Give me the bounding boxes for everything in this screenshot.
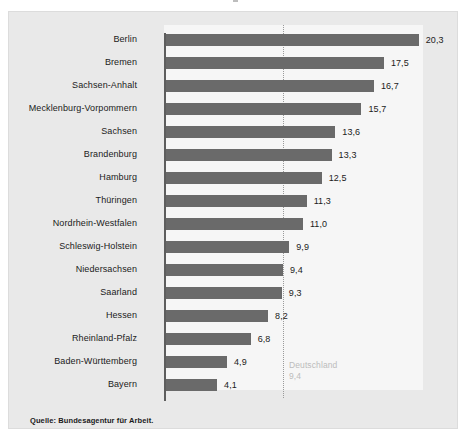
bar <box>166 126 335 138</box>
bar <box>166 264 283 276</box>
bar-row: Saarland9,3 <box>9 283 457 306</box>
chart-figure: Berlin20,3Bremen17,5Sachsen-Anhalt16,7Me… <box>0 0 470 441</box>
category-label: Sachsen-Anhalt <box>72 80 137 90</box>
category-label: Thüringen <box>96 195 137 205</box>
bar-value-label: 11,0 <box>310 219 327 229</box>
bar-value-label: 9,3 <box>289 288 302 298</box>
bar-row: Schleswig-Holstein9,9 <box>9 237 457 260</box>
bar-value-label: 20,3 <box>426 35 444 45</box>
bar <box>166 149 332 161</box>
bar-value-label: 8,2 <box>275 311 288 321</box>
bar-value-label: 12,5 <box>329 173 347 183</box>
chart-panel: Berlin20,3Bremen17,5Sachsen-Anhalt16,7Me… <box>8 11 458 429</box>
category-label: Mecklenburg-Vorpommern <box>29 103 137 113</box>
bar <box>166 172 322 184</box>
bar-row: Hessen8,2 <box>9 306 457 329</box>
bar-row: Bremen17,5 <box>9 53 457 76</box>
bar-value-label: 13,6 <box>342 127 360 137</box>
deutschland-annotation: Deutschland 9,4 <box>289 360 337 382</box>
category-label: Bremen <box>105 57 137 67</box>
category-label: Rheinland-Pfalz <box>72 333 137 343</box>
bar-row: Hamburg12,5 <box>9 168 457 191</box>
crop-mark <box>233 0 238 2</box>
bar-row: Sachsen13,6 <box>9 122 457 145</box>
category-label: Schleswig-Holstein <box>59 241 137 251</box>
bar-value-label: 4,1 <box>224 380 237 390</box>
bar-row: Mecklenburg-Vorpommern15,7 <box>9 99 457 122</box>
bar-row: Brandenburg13,3 <box>9 145 457 168</box>
category-label: Bayern <box>108 379 137 389</box>
category-label: Berlin <box>113 34 137 44</box>
category-label: Sachsen <box>101 126 137 136</box>
bar-row: Sachsen-Anhalt16,7 <box>9 76 457 99</box>
bar-row: Thüringen11,3 <box>9 191 457 214</box>
bar <box>166 287 282 299</box>
bar-rows-container: Berlin20,3Bremen17,5Sachsen-Anhalt16,7Me… <box>9 12 457 428</box>
category-label: Niedersachsen <box>76 264 137 274</box>
bar-row: Rheinland-Pfalz6,8 <box>9 329 457 352</box>
bar-row: Berlin20,3 <box>9 30 457 53</box>
category-label: Brandenburg <box>84 149 137 159</box>
bar-row: Baden-Württemberg4,9 <box>9 352 457 375</box>
bar <box>166 195 307 207</box>
category-label: Hamburg <box>99 172 137 182</box>
bar <box>166 379 217 391</box>
bar-value-label: 17,5 <box>391 58 409 68</box>
bar <box>166 241 289 253</box>
bar-value-label: 11,3 <box>314 196 331 206</box>
bar <box>166 34 419 46</box>
bar-value-label: 6,8 <box>258 334 271 344</box>
bar <box>166 356 227 368</box>
bar-row: Nordrhein-Westfalen11,0 <box>9 214 457 237</box>
category-label: Baden-Württemberg <box>54 356 137 366</box>
category-label: Hessen <box>106 310 137 320</box>
deutschland-annotation-label: Deutschland <box>289 360 337 371</box>
bar-row: Niedersachsen9,4 <box>9 260 457 283</box>
bar-value-label: 16,7 <box>381 81 399 91</box>
bar <box>166 57 384 69</box>
bar-value-label: 13,3 <box>339 150 357 160</box>
bar <box>166 310 268 322</box>
bar-value-label: 9,4 <box>290 265 303 275</box>
bar-row: Bayern4,1 <box>9 375 457 398</box>
bar-value-label: 4,9 <box>234 357 247 367</box>
bar <box>166 103 361 115</box>
category-label: Nordrhein-Westfalen <box>53 218 137 228</box>
bar-value-label: 9,9 <box>296 242 309 252</box>
bar <box>166 80 374 92</box>
bar-value-label: 15,7 <box>368 104 386 114</box>
source-note: Quelle: Bundesagentur für Arbeit. <box>30 416 153 425</box>
bar <box>166 333 251 345</box>
deutschland-annotation-value: 9,4 <box>289 371 337 382</box>
category-label: Saarland <box>100 287 137 297</box>
bar <box>166 218 303 230</box>
